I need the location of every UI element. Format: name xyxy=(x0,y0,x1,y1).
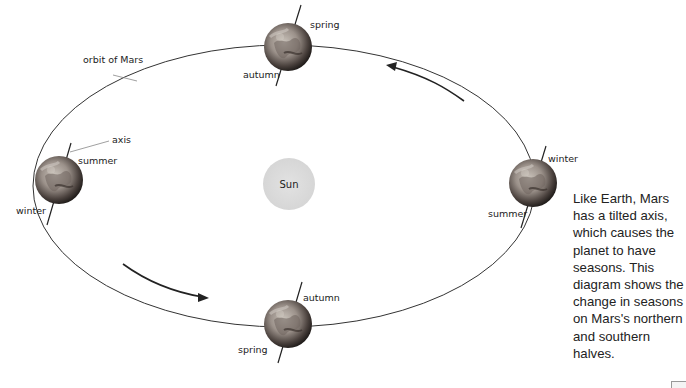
season-label-winter: winter xyxy=(548,153,578,164)
orbit-label: orbit of Mars xyxy=(83,54,143,65)
orbit-direction-arrow-lower xyxy=(123,264,209,302)
orbit-leader-line xyxy=(113,75,137,81)
sun-label: Sun xyxy=(279,179,298,190)
season-label-autumn: autumn xyxy=(243,69,280,80)
season-label-winter: winter xyxy=(16,205,46,216)
season-label-summer: summer xyxy=(488,208,527,219)
season-label-spring: spring xyxy=(238,344,268,355)
diagram-caption: Like Earth, Mars has a tilted axis, whic… xyxy=(573,190,685,362)
mars-planet-right: winter summer xyxy=(488,146,578,228)
corner-box xyxy=(671,381,686,388)
mars-planet-bottom: autumn spring xyxy=(238,282,340,363)
axis-label: axis xyxy=(112,134,131,145)
sun: Sun xyxy=(263,158,315,210)
axis-leader-line xyxy=(70,141,109,152)
season-label-spring: spring xyxy=(310,19,340,30)
season-label-autumn: autumn xyxy=(303,292,340,303)
season-label-summer: summer xyxy=(78,155,117,166)
